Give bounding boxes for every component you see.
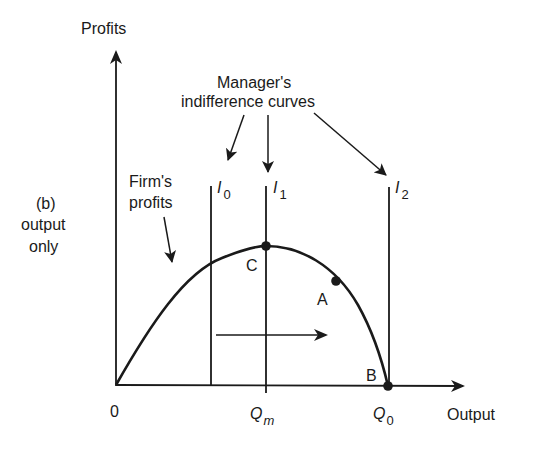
point-c-label: C — [246, 257, 258, 274]
panel-caption-line2: only — [29, 238, 58, 255]
annotation-firm-line1: Firm's — [129, 173, 172, 190]
point-b-label: B — [366, 367, 377, 384]
annotation-arrow-to-profit-curve-icon — [164, 217, 172, 262]
point-c-marker — [261, 241, 271, 251]
point-a-marker — [331, 276, 341, 286]
profit-output-diagram: Profits Output 0 (b) output only I0 I1 I… — [0, 0, 535, 455]
panel-label: (b) — [36, 195, 56, 212]
annotation-firm-line2: profits — [129, 194, 173, 211]
panel-caption-line1: output — [21, 216, 66, 233]
x-tick-qm-label: Qm — [250, 405, 274, 428]
x-axis — [116, 385, 463, 386]
annotation-manager-line1: Manager's — [217, 74, 291, 91]
indifference-curve-i0-label: I0 — [217, 179, 231, 202]
annotation-arrow-to-i0-icon — [228, 115, 244, 160]
point-b-marker — [383, 381, 393, 391]
indifference-curve-i2-label: I2 — [395, 179, 409, 202]
x-tick-q0-label: Q0 — [373, 405, 394, 428]
y-axis-label: Profits — [81, 20, 126, 37]
point-a-label: A — [317, 291, 328, 308]
x-axis-label: Output — [447, 406, 496, 423]
annotation-arrow-to-i2-icon — [314, 113, 386, 175]
indifference-curve-i1-label: I1 — [273, 179, 287, 202]
origin-label: 0 — [110, 403, 119, 420]
annotation-manager-line2: indifference curves — [181, 93, 315, 110]
